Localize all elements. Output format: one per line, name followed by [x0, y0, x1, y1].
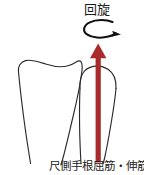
- muscle-label: 尺側手根屈筋・伸筋: [49, 161, 144, 173]
- rotation-curved-arrow-path: [84, 20, 116, 38]
- rotation-arrow-head-icon: [111, 31, 121, 37]
- rotation-label: 回旋: [84, 3, 110, 16]
- radius-bone-outline: [18, 60, 82, 73]
- radius-medial-shaft: [61, 74, 81, 164]
- anatomy-figure: 回旋 尺側手根屈筋・伸筋: [0, 0, 144, 175]
- muscle-force-arrow-head-icon: [90, 44, 106, 59]
- radius-lateral-shaft: [19, 72, 31, 164]
- forearm-bones-diagram: [0, 0, 144, 175]
- ulna-lateral-shaft: [80, 88, 81, 164]
- ulna-medial-shaft: [103, 89, 116, 164]
